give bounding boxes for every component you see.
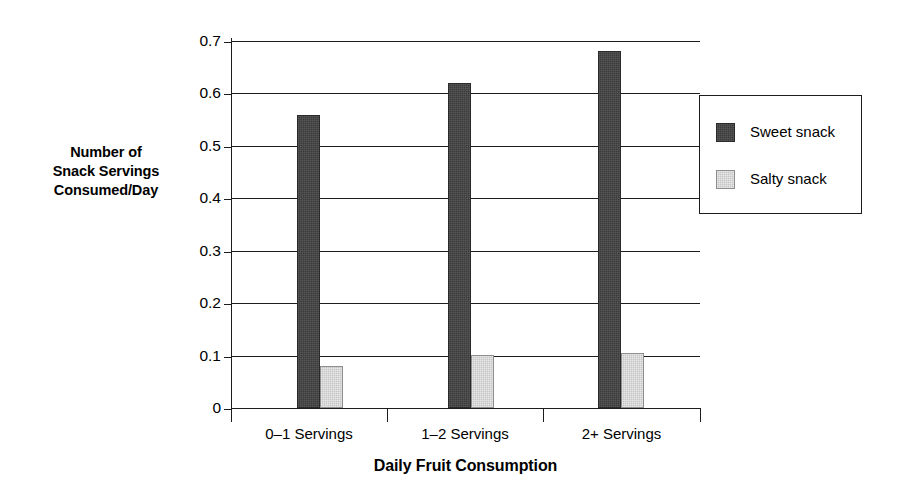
bar-sweet-2-plus-servings (598, 51, 621, 408)
bar-salty-2-plus-servings (621, 353, 644, 408)
bar-sweet-0-1-servings (297, 115, 320, 408)
y-tick-label-0.4: 0.4 (199, 188, 221, 208)
x-axis-label-2: 2+ Servings (543, 424, 700, 444)
y-tick-label-0.5: 0.5 (199, 136, 221, 156)
y-axis-title-line-3: Consumed/Day (22, 181, 190, 200)
y-tick-label-0.1: 0.1 (199, 346, 221, 366)
bar-sweet-1-2-servings (448, 83, 471, 408)
y-axis-title-line-1: Number of (22, 143, 190, 162)
x-axis-title: Daily Fruit Consumption (231, 457, 700, 475)
legend-item-salty-snack: Salty snack (716, 169, 827, 189)
x-axis-label-0: 0–1 Servings (231, 424, 387, 444)
bar-chart-figure: Number of Snack Servings Consumed/Day 0.… (0, 0, 898, 497)
bar-salty-1-2-servings (471, 355, 494, 409)
y-axis-title: Number of Snack Servings Consumed/Day (22, 143, 190, 200)
legend-swatch-salty-snack (716, 170, 735, 189)
y-tick-label-0.6: 0.6 (199, 83, 221, 103)
y-tick-label-0.2: 0.2 (199, 293, 221, 313)
y-tick-0.3 (224, 252, 231, 253)
y-tick-0.7 (224, 42, 231, 43)
y-tick-label-0.7: 0.7 (199, 31, 221, 51)
legend-label-sweet-snack: Sweet snack (750, 122, 835, 142)
y-tick-label-0: 0 (212, 398, 221, 418)
legend-label-salty-snack: Salty snack (750, 169, 827, 189)
y-axis-title-line-2: Snack Servings (22, 162, 190, 181)
x-axis-separator-1 (387, 408, 388, 422)
gridline-0.7: 0.7 (231, 41, 700, 42)
y-tick-0 (224, 409, 231, 410)
y-tick-0.6 (224, 94, 231, 95)
y-tick-0.2 (224, 304, 231, 305)
y-tick-0.5 (224, 147, 231, 148)
bar-salty-0-1-servings (320, 366, 343, 408)
y-tick-0.1 (224, 357, 231, 358)
legend-item-sweet-snack: Sweet snack (716, 122, 835, 142)
plot-area: 0.7 0.6 0.5 0.4 0.3 0.2 0.1 0 (231, 41, 700, 408)
x-axis-label-1: 1–2 Servings (387, 424, 543, 444)
y-tick-label-0.3: 0.3 (199, 241, 221, 261)
chart-legend: Sweet snack Salty snack (699, 95, 862, 214)
y-tick-0.4 (224, 199, 231, 200)
legend-swatch-sweet-snack (716, 123, 735, 142)
x-axis-separator-2 (543, 408, 544, 422)
x-axis-separator-3 (700, 408, 701, 422)
x-axis-separator-0 (231, 408, 232, 422)
gridline-0: 0 (231, 408, 700, 409)
